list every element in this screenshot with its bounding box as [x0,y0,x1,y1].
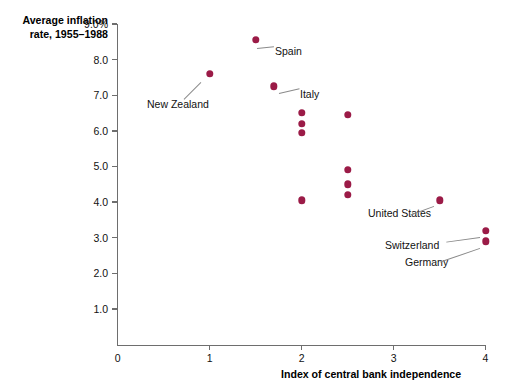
data-point [344,181,351,188]
y-tick-label: 7.0 [93,89,108,101]
scatter-chart-figure: Average inflation rate, 1955–1988 Index … [0,0,513,387]
point-annotation-label: United States [368,207,431,219]
x-tick-mark [393,345,394,350]
x-tick-label: 0 [115,352,121,364]
y-tick-mark [112,95,117,96]
y-tick-mark [112,166,117,167]
x-tick-label: 1 [207,352,213,364]
data-point [298,109,305,116]
point-annotation-label: New Zealand [147,98,209,110]
data-point [252,36,259,43]
x-tick-mark [301,345,302,350]
x-tick-mark [485,345,486,350]
y-tick-label: 2.0 [93,267,108,279]
y-tick-label: 9.0% [84,18,108,30]
y-tick-label: 1.0 [93,303,108,315]
data-point [270,83,277,90]
point-annotation-label: Italy [300,88,319,100]
y-tick-mark [112,237,117,238]
y-tick-label: 8.0 [93,54,108,66]
y-tick-label: 3.0 [93,232,108,244]
y-axis-line [117,24,118,346]
y-tick-mark [112,308,117,309]
x-axis-title: Index of central bank independence [281,368,461,380]
data-point [482,227,489,234]
data-point [298,129,305,136]
annotation-leader-line [279,88,300,94]
y-tick-mark [112,23,117,24]
y-tick-mark [112,59,117,60]
x-tick-label: 4 [483,352,489,364]
data-point [344,166,351,173]
data-point [482,238,489,245]
data-point [298,120,305,127]
data-point [436,197,443,204]
y-tick-mark [112,273,117,274]
point-annotation-label: Switzerland [385,239,439,251]
y-tick-mark [112,130,117,131]
data-point [206,70,213,77]
x-tick-mark [209,345,210,350]
annotation-leader-line [257,46,274,49]
data-point [344,191,351,198]
point-annotation-label: Spain [275,45,302,57]
annotation-leader-line [446,237,480,243]
y-tick-label: 5.0 [93,160,108,172]
y-tick-label: 6.0 [93,125,108,137]
data-point [298,197,305,204]
y-tick-label: 4.0 [93,196,108,208]
y-tick-mark [112,201,117,202]
x-tick-label: 3 [391,352,397,364]
x-tick-label: 2 [299,352,305,364]
data-point [344,111,351,118]
